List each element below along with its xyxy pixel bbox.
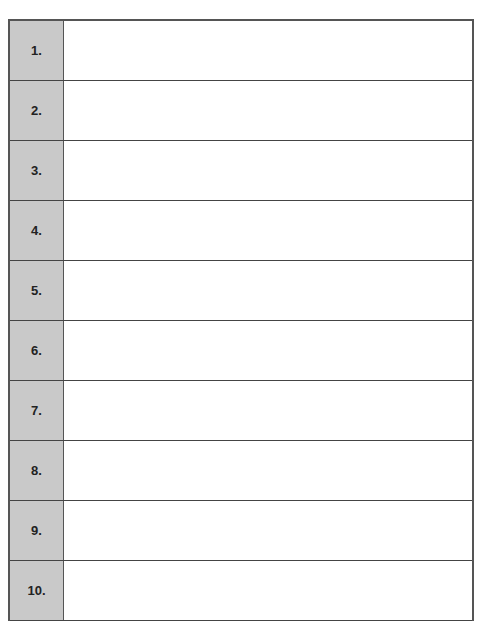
table-row: 5. <box>10 261 472 321</box>
row-entry-cell[interactable] <box>64 381 472 440</box>
numbered-list-table: 1. 2. 3. 4. 5. 6. 7. 8. 9. 10. <box>8 19 474 621</box>
table-row: 6. <box>10 321 472 381</box>
row-number: 3. <box>10 141 64 200</box>
row-entry-cell[interactable] <box>64 201 472 260</box>
table-row: 8. <box>10 441 472 501</box>
row-entry-cell[interactable] <box>64 321 472 380</box>
row-number: 10. <box>10 561 64 620</box>
table-row: 3. <box>10 141 472 201</box>
row-number: 7. <box>10 381 64 440</box>
row-number: 8. <box>10 441 64 500</box>
table-row: 7. <box>10 381 472 441</box>
table-row: 10. <box>10 561 472 621</box>
row-entry-cell[interactable] <box>64 81 472 140</box>
table-row: 9. <box>10 501 472 561</box>
table-row: 2. <box>10 81 472 141</box>
row-number: 9. <box>10 501 64 560</box>
row-number: 4. <box>10 201 64 260</box>
row-entry-cell[interactable] <box>64 141 472 200</box>
row-number: 5. <box>10 261 64 320</box>
row-number: 2. <box>10 81 64 140</box>
table-row: 4. <box>10 201 472 261</box>
row-number: 6. <box>10 321 64 380</box>
table-row: 1. <box>10 21 472 81</box>
row-entry-cell[interactable] <box>64 561 472 620</box>
row-entry-cell[interactable] <box>64 501 472 560</box>
row-entry-cell[interactable] <box>64 261 472 320</box>
row-entry-cell[interactable] <box>64 21 472 80</box>
row-entry-cell[interactable] <box>64 441 472 500</box>
row-number: 1. <box>10 21 64 80</box>
